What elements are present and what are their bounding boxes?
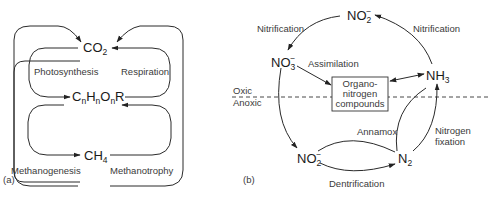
node-n2: N2 <box>398 151 412 168</box>
nitrogen-fixation-arrow <box>413 84 437 151</box>
biogeochemical-cycles-diagram: CO2 CnHnOnR CH4 Photosynthesis Respirati… <box>0 0 488 197</box>
node-no3: NO3− <box>271 53 296 72</box>
node-ch4: CH4 <box>84 148 108 165</box>
node-nh3: NH3 <box>426 68 450 85</box>
label-assimilation: Assimilation <box>308 58 359 69</box>
label-photosynthesis: Photosynthesis <box>34 66 99 77</box>
label-nitrogen-fixation-1: Nitrogen <box>435 125 471 136</box>
methanogenesis-outer-arrow <box>14 26 81 186</box>
methanotrophy-outer-arrow <box>110 26 183 186</box>
label-methanogenesis: Methanogenesis <box>11 165 81 176</box>
panel-a-carbon-cycle: CO2 CnHnOnR CH4 Photosynthesis Respirati… <box>3 26 183 186</box>
label-oxic: Oxic <box>233 85 252 96</box>
organo-line-3: compounds <box>335 98 384 109</box>
organo-nh3-bidirectional-arrow <box>390 74 424 81</box>
node-organic-matter: CnHnOnR <box>72 89 125 106</box>
methanogenesis-arrow <box>28 105 80 155</box>
label-nitrification-right: Nitrification <box>413 23 460 34</box>
outer-left-arrow <box>14 61 80 182</box>
label-dentrification: Dentrification <box>329 178 384 189</box>
label-annamox: Annamox <box>357 126 397 137</box>
label-methanotrophy: Methanotrophy <box>110 165 174 176</box>
label-anoxic: Anoxic <box>233 97 262 108</box>
label-nitrification-left: Nitrification <box>257 23 304 34</box>
label-nitrogen-fixation-2: fixation <box>435 136 465 147</box>
node-no2-top: NO2− <box>347 6 372 25</box>
dentrification-arrow <box>320 163 395 171</box>
panel-b-label: (b) <box>243 174 255 185</box>
panel-b-nitrogen-cycle: Organo- nitrogen compounds NO2− NO3− NH3… <box>232 6 488 189</box>
node-no2-bottom: NO2− <box>297 149 322 168</box>
methanotrophy-arrow <box>110 105 171 155</box>
panel-a-label: (a) <box>3 174 15 185</box>
node-co2: CO2 <box>83 40 108 57</box>
no3-to-no2-arrow <box>279 68 297 148</box>
label-respiration: Respiration <box>121 66 169 77</box>
annamox-arrow <box>318 141 395 152</box>
